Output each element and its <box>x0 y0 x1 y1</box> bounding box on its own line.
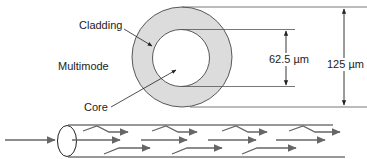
cladding-dimension: 125 µm <box>327 9 365 105</box>
core-label: Core <box>84 101 108 113</box>
fiber-cross-section <box>132 7 232 107</box>
multimode-label: Multimode <box>58 60 109 72</box>
fiber-end-face <box>58 126 77 157</box>
light-rays <box>72 126 340 154</box>
core-dimension: 62.5 µm <box>269 31 309 85</box>
core-diameter-label: 62.5 µm <box>269 53 309 65</box>
core-circle <box>153 30 210 87</box>
fiber-longitudinal-view <box>5 125 345 157</box>
cladding-label: Cladding <box>79 19 122 31</box>
cladding-diameter-label: 125 µm <box>327 58 364 70</box>
multimode-fiber-diagram: 62.5 µm 125 µm Cladding Multimode Core <box>0 0 367 159</box>
